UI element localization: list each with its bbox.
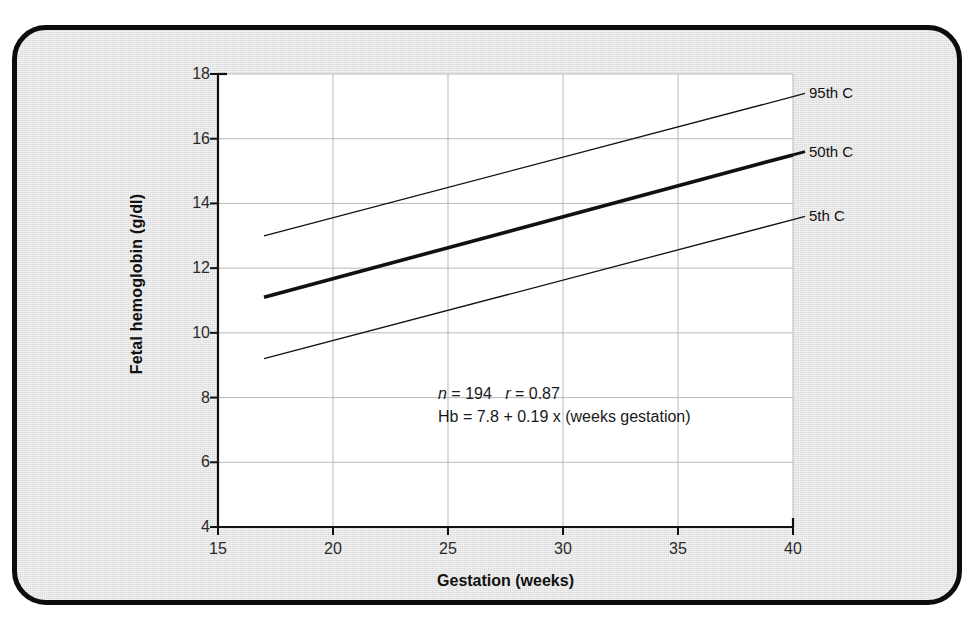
chart-area: 4681012141618 152025303540 Fetal hemoglo… [0,0,976,627]
series-leader-0 [793,93,805,96]
series-line-0 [264,97,793,236]
annotation-r-symbol: r [505,385,510,402]
y-axis-label: Fetal hemoglobin (g/dl) [148,74,168,527]
y-tick-label: 6 [170,453,210,471]
chart-annotation: n = 194 r = 0.87 Hb = 7.8 + 0.19 x (week… [438,382,691,428]
annotation-r-value: = 0.87 [515,385,560,402]
y-tick-label: 14 [170,194,210,212]
annotation-n-symbol: n [438,385,447,402]
series-label-0: 95th C [809,84,853,101]
series-lines [264,97,793,359]
series-line-2 [264,220,793,359]
y-axis-label-text: Fetal hemoglobin (g/dl) [128,194,146,375]
y-tick-label: 8 [170,389,210,407]
series-leader-lines [793,93,805,219]
x-tick-label: 15 [196,540,240,558]
y-tick-label: 16 [170,130,210,148]
x-tick-label: 20 [311,540,355,558]
x-tick-labels: 152025303540 [0,540,976,566]
y-tick-label: 10 [170,324,210,342]
axes [218,74,793,527]
series-leader-1 [793,152,805,155]
annotation-line-2: Hb = 7.8 + 0.19 x (weeks gestation) [438,405,691,428]
y-tick-labels: 4681012141618 [165,0,210,627]
tick-marks [210,74,793,535]
x-axis-label-text: Gestation (weeks) [218,572,793,590]
series-label-1: 50th C [809,142,853,159]
figure-root: 4681012141618 152025303540 Fetal hemoglo… [0,0,976,627]
annotation-n-value: = 194 [451,385,491,402]
series-leader-2 [793,216,805,219]
y-tick-label: 18 [170,65,210,83]
y-tick-label: 12 [170,259,210,277]
x-tick-label: 35 [656,540,700,558]
annotation-line-1: n = 194 r = 0.87 [438,382,691,405]
y-tick-label: 4 [170,518,210,536]
series-label-2: 5th C [809,207,845,224]
gridlines [218,74,793,527]
x-tick-label: 30 [541,540,585,558]
x-tick-label: 40 [771,540,815,558]
x-tick-label: 25 [426,540,470,558]
series-line-1 [264,155,793,297]
